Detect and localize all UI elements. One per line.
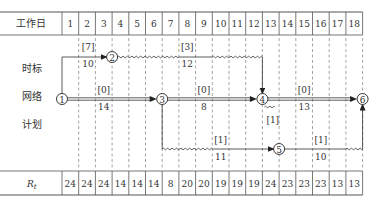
arrow-head <box>250 96 257 102</box>
header-day-13: 13 <box>265 19 277 29</box>
resource-value-day-13: 24 <box>265 179 277 189</box>
activity-duration-label: 10 <box>82 59 94 69</box>
arrow-head <box>150 96 157 102</box>
header-row: 工作日 123456789101112131415161718 <box>16 18 360 29</box>
resource-value-day-10: 19 <box>215 179 227 189</box>
header-day-2: 2 <box>84 19 90 29</box>
free-float-wave <box>162 148 212 150</box>
resource-value-day-17: 13 <box>332 179 344 189</box>
event-node-3: 3 <box>157 94 168 105</box>
side-label-2: 网络 <box>22 90 42 102</box>
side-label-1: 时标 <box>22 63 42 74</box>
node-number: 4 <box>260 95 266 105</box>
resource-value-day-15: 23 <box>298 179 310 189</box>
free-float-wave <box>212 56 262 58</box>
event-node-2: 2 <box>107 52 118 63</box>
activity-resource-label: [0] <box>198 85 211 95</box>
header-day-3: 3 <box>101 19 107 29</box>
event-node-6: 6 <box>357 94 368 105</box>
header-day-18: 18 <box>349 19 361 29</box>
activity-duration-label: 8 <box>201 102 207 112</box>
node-number: 1 <box>59 95 65 105</box>
header-day-11: 11 <box>232 19 243 29</box>
time-scaled-network-diagram: 工作日 123456789101112131415161718 时标 网络 计划… <box>0 0 380 210</box>
resource-value-day-16: 23 <box>315 179 327 189</box>
arrow-head <box>350 96 357 102</box>
header-day-17: 17 <box>332 19 344 29</box>
header-day-16: 16 <box>315 19 327 29</box>
activity-5-6: [1]10 <box>285 105 363 163</box>
header-day-15: 15 <box>298 19 310 29</box>
resource-value-day-11: 19 <box>232 179 244 189</box>
activity-resource-label: [0] <box>97 85 110 95</box>
activity-4-5: [1] <box>264 106 279 125</box>
resource-row: Rt 24242414141482020191919242323231313 <box>26 179 360 191</box>
side-labels: 时标 网络 计划 <box>22 63 42 130</box>
header-day-8: 8 <box>184 19 190 29</box>
resource-value-day-8: 20 <box>182 179 194 189</box>
resource-value-day-2: 24 <box>81 179 93 189</box>
activity-duration-label: 12 <box>182 59 193 69</box>
network-canvas: 工作日 123456789101112131415161718 时标 网络 计划… <box>0 0 380 210</box>
node-number: 3 <box>159 95 165 105</box>
free-float-wave <box>264 106 274 108</box>
activity-resource-label: [1] <box>266 115 279 125</box>
event-node-5: 5 <box>274 144 285 155</box>
activity-duration-label: 11 <box>215 152 226 162</box>
header-row-label: 工作日 <box>16 18 46 29</box>
header-day-4: 4 <box>118 19 124 29</box>
activity-resource-label: [0] <box>298 85 311 95</box>
node-number: 5 <box>276 145 282 155</box>
activity-resource-label: [3] <box>181 42 194 52</box>
resource-value-day-12: 19 <box>248 179 260 189</box>
resource-row-label: Rt <box>26 179 37 191</box>
header-day-12: 12 <box>248 19 259 29</box>
resource-value-day-9: 20 <box>198 179 210 189</box>
header-day-7: 7 <box>168 19 174 29</box>
node-number: 2 <box>109 53 115 63</box>
activity-resource-label: [1] <box>314 135 327 145</box>
activity-resource-label: [7] <box>82 42 95 52</box>
resource-value-day-5: 14 <box>131 179 143 189</box>
resource-value-day-4: 14 <box>115 179 127 189</box>
activity-duration-label: 10 <box>315 152 327 162</box>
event-node-4: 4 <box>257 94 268 105</box>
event-node-1: 1 <box>57 94 68 105</box>
header-day-6: 6 <box>151 19 157 29</box>
resource-value-day-1: 24 <box>65 179 77 189</box>
header-day-5: 5 <box>134 19 140 29</box>
activity-2-4: [3]12 <box>118 42 263 94</box>
side-label-3: 计划 <box>22 118 42 130</box>
activity-duration-label: 13 <box>298 102 310 112</box>
resource-value-day-6: 14 <box>148 179 160 189</box>
header-day-10: 10 <box>215 19 227 29</box>
free-float-wave <box>118 56 179 58</box>
resource-value-day-18: 13 <box>349 179 361 189</box>
free-float-wave <box>346 148 363 150</box>
header-day-9: 9 <box>201 19 207 29</box>
resource-value-day-14: 23 <box>282 179 294 189</box>
header-day-1: 1 <box>67 19 73 29</box>
header-day-14: 14 <box>282 19 294 29</box>
activity-resource-label: [1] <box>214 135 227 145</box>
resource-value-day-3: 24 <box>98 179 110 189</box>
resource-value-day-7: 8 <box>168 179 174 189</box>
node-number: 6 <box>360 95 366 105</box>
activity-duration-label: 14 <box>98 102 110 112</box>
